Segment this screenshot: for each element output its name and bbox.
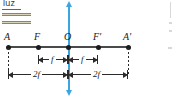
axis-label-a: A: [4, 31, 10, 42]
light-ray-shaft: [2, 13, 31, 16]
dimension-arrow-right: [93, 57, 98, 63]
axis-label-f: F: [34, 31, 40, 42]
dimension-arrow-left: [68, 72, 73, 78]
diagram-canvas: luz A F O F' A' f: [0, 0, 177, 97]
dashed-extension-a-prime: [128, 48, 129, 74]
light-source-group: luz: [0, 0, 48, 30]
dimension-label-f-right: f: [79, 54, 86, 64]
dimension-label-2f-right: 2f: [91, 69, 102, 79]
light-ray-arrow-1: [2, 12, 38, 17]
axis-label-o: O: [64, 31, 71, 42]
dimension-arrow-left: [68, 57, 73, 63]
axis-point-f-prime: [96, 45, 101, 50]
dimension-2f-left: 2f: [8, 70, 68, 79]
axis-label-a-prime: A': [123, 31, 131, 42]
light-ray-shaft: [2, 21, 31, 24]
dimension-2f-right: 2f: [68, 70, 128, 79]
luz-label: luz: [3, 0, 15, 8]
axis-label-f-prime: F': [93, 31, 101, 42]
lens-axis-arrowhead-bottom: [66, 90, 72, 96]
dimension-label-f-left: f: [49, 54, 56, 64]
luz-underline: [2, 9, 21, 10]
axis-point-o: [66, 45, 71, 50]
dimension-arrow-right: [123, 72, 128, 78]
dimension-f-left: f: [38, 55, 68, 64]
dimension-arrow-left: [8, 72, 13, 78]
dimension-arrow-left: [38, 57, 43, 63]
light-ray-arrow-2: [2, 20, 38, 25]
axis-point-f: [36, 45, 41, 50]
edge-mark: [170, 2, 171, 18]
edge-mark: [169, 22, 172, 24]
dimension-label-2f-left: 2f: [31, 69, 42, 79]
dimension-f-right: f: [68, 55, 98, 64]
edge-mark: [169, 30, 172, 32]
edge-mark: [168, 47, 172, 49]
